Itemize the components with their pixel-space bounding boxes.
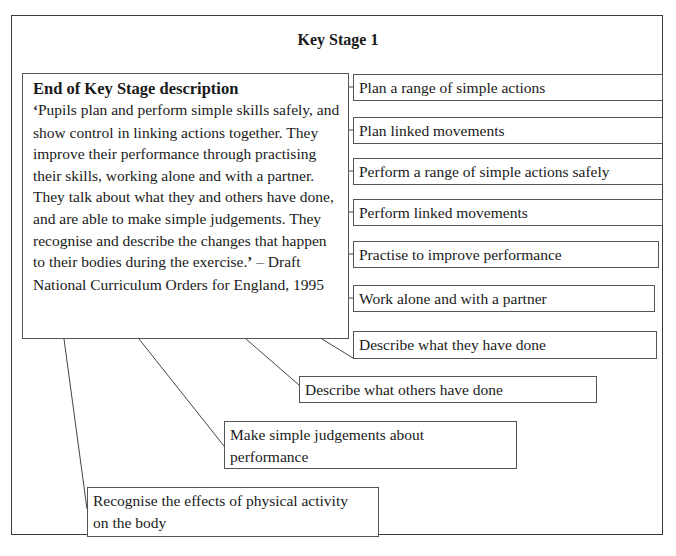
skill-box: Plan a range of simple actions xyxy=(353,74,663,101)
end-of-stage-description: End of Key Stage description ‘Pupils pla… xyxy=(22,73,349,339)
skill-label: Work alone and with a partner xyxy=(359,290,547,307)
skill-box: Describe what they have done xyxy=(353,331,657,359)
skill-box: Describe what others have done xyxy=(299,376,597,403)
skill-box: Perform a range of simple actions safely xyxy=(353,158,663,185)
skill-box: Perform linked movements xyxy=(353,199,663,226)
skill-box: Recognise the effects of physical activi… xyxy=(87,487,379,537)
skill-label: Describe what they have done xyxy=(359,336,546,353)
skill-label: Plan linked movements xyxy=(359,122,505,139)
skill-label: Make simple judgements about performance xyxy=(230,426,424,465)
skill-label: Plan a range of simple actions xyxy=(359,79,545,96)
connector-8 xyxy=(246,339,299,385)
connector-9 xyxy=(139,339,224,446)
skill-box: Make simple judgements about performance xyxy=(224,421,517,469)
skill-label: Describe what others have done xyxy=(305,381,503,398)
description-quote: Pupils plan and perform simple skills sa… xyxy=(33,101,339,270)
skill-label: Perform linked movements xyxy=(359,204,528,221)
skill-label: Recognise the effects of physical activi… xyxy=(93,492,348,531)
skill-box: Work alone and with a partner xyxy=(353,285,655,312)
connector-7 xyxy=(322,339,353,358)
skill-box: Practise to improve performance xyxy=(353,241,659,268)
description-heading: End of Key Stage description xyxy=(33,78,340,99)
skill-label: Practise to improve performance xyxy=(359,246,562,263)
skill-box: Plan linked movements xyxy=(353,117,663,144)
skill-label: Perform a range of simple actions safely xyxy=(359,163,610,180)
description-body: ‘Pupils plan and perform simple skills s… xyxy=(33,99,340,295)
connector-10 xyxy=(64,339,87,509)
